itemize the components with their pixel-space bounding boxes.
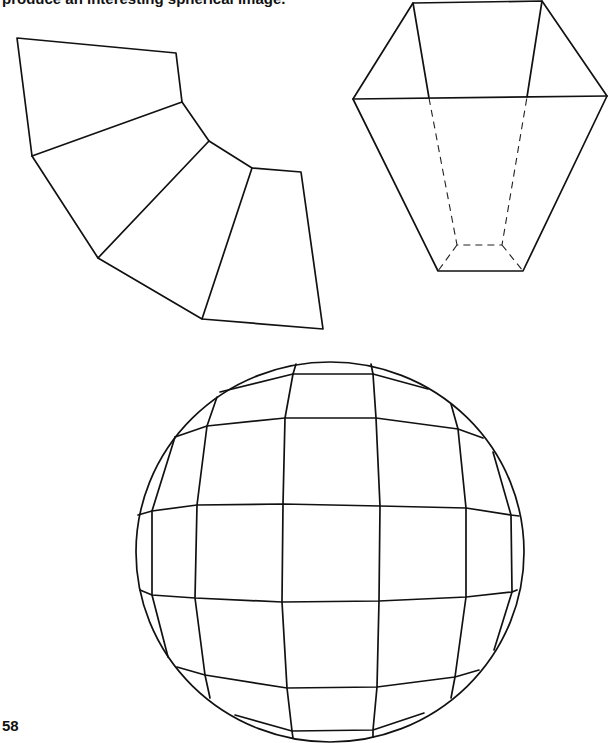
sphere-grid-line <box>451 404 466 698</box>
pyramid-edge <box>353 1 607 271</box>
fan-net-figure <box>17 38 323 329</box>
pyramid-edge <box>353 96 607 99</box>
sphere-grid-line <box>138 504 519 516</box>
page-number: 58 <box>2 717 19 734</box>
pyramid-hidden-edge <box>429 97 527 245</box>
pyramid-hidden-edge <box>438 245 457 271</box>
sphere-grid-line <box>373 374 380 737</box>
sphere-grid-line <box>493 452 512 650</box>
sphere-grid-line <box>235 713 424 731</box>
fan-net-edge <box>32 102 209 258</box>
pyramid-edge <box>413 3 429 98</box>
sphere-grid-line <box>282 374 293 738</box>
truncated-pyramid-figure <box>353 1 607 271</box>
pyramid-hidden-edge <box>502 245 523 271</box>
fan-net-edge <box>202 168 323 329</box>
sphere-grid-line <box>220 374 428 392</box>
fan-net-edge <box>98 141 252 319</box>
sphere-grid-line <box>140 590 517 602</box>
faceted-sphere-figure <box>136 362 524 742</box>
fan-net-edge <box>17 38 182 156</box>
sphere-grid-line <box>175 418 483 438</box>
sphere-grid-line <box>371 364 373 374</box>
sphere-grid-line <box>177 667 479 688</box>
illustrations <box>0 0 616 743</box>
pyramid-edge <box>527 1 542 97</box>
sphere-grid-line <box>195 397 217 698</box>
